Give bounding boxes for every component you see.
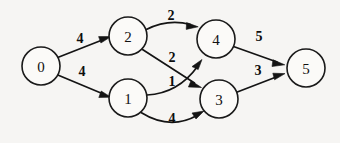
edge-2-to-4-arrowhead [186,23,198,30]
node-2-label: 2 [124,29,132,45]
node-4[interactable]: 4 [197,20,235,58]
edge-4-to-5-arrowhead [272,60,285,67]
node-1-label: 1 [124,91,132,107]
edge-weight-4-5: 5 [256,29,263,44]
edge-layer [58,22,285,122]
node-1[interactable]: 1 [109,79,147,117]
node-5-label: 5 [302,61,310,77]
edge-1-to-4-arrowhead [192,60,202,70]
edge-2-to-4-line [146,22,190,29]
edge-weight-3-5: 3 [255,63,262,78]
node-2[interactable]: 2 [109,17,147,55]
edge-3-to-5-line [236,77,278,93]
node-layer: 0 1 2 3 4 5 [22,17,325,118]
node-4-label: 4 [212,32,220,48]
edge-weight-0-1: 4 [79,64,86,79]
edge-2-to-4 [146,22,198,29]
node-0-label: 0 [37,59,45,75]
edge-4-to-5-line [234,47,278,63]
edge-weight-2-4: 2 [168,8,175,23]
edge-weight-1-3: 4 [169,111,176,126]
node-0[interactable]: 0 [22,47,60,85]
edge-weight-0-2: 4 [77,31,84,46]
edge-0-to-2 [58,37,111,58]
edge-0-to-1 [58,75,111,97]
graph-svg: 4 4 2 2 1 4 5 3 0 1 2 [0,0,340,143]
edge-2-to-3-arrowhead [188,81,201,88]
node-3-label: 3 [215,92,223,108]
node-5[interactable]: 5 [287,49,325,87]
edge-3-to-5-arrowhead [273,73,285,80]
graph-diagram-canvas: 4 4 2 2 1 4 5 3 0 1 2 [0,0,340,143]
node-3[interactable]: 3 [200,80,238,118]
edge-weight-2-3: 2 [169,50,176,65]
edge-weight-1-4: 1 [169,74,176,89]
